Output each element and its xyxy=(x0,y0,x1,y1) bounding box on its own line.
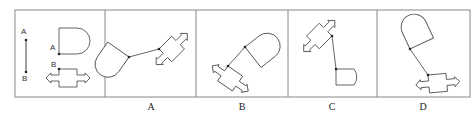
label-b-shape: B xyxy=(51,60,56,69)
label-b-bottom: B xyxy=(22,74,27,83)
option-b-figure xyxy=(207,28,285,99)
option-d-figure xyxy=(397,10,461,94)
option-c-figure xyxy=(297,14,356,85)
segment-ab xyxy=(25,39,28,74)
option-d-label: D xyxy=(413,101,433,112)
puzzle-svg xyxy=(0,0,474,117)
plug-shape-reference xyxy=(46,68,90,87)
option-a-label: A xyxy=(141,101,161,112)
option-c-label: C xyxy=(322,101,342,112)
reference-panel xyxy=(25,28,90,87)
label-a-top: A xyxy=(21,27,26,36)
puzzle-figure: A B A B A B C D xyxy=(0,0,474,117)
bullet-shape-reference xyxy=(58,28,90,55)
option-b-label: B xyxy=(232,101,252,112)
label-a-shape: A xyxy=(50,43,55,52)
